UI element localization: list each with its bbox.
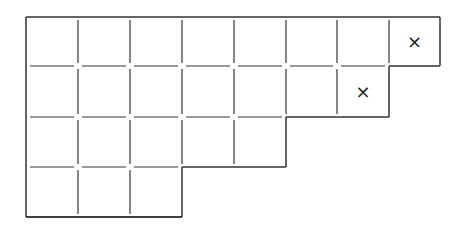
cross-mark-icon: × [407,33,422,51]
cross-mark-icon: × [355,83,370,101]
young-diagram-grid [0,0,470,229]
